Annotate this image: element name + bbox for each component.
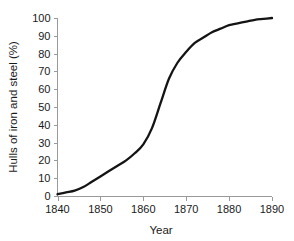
y-tick-label: 90: [38, 30, 50, 42]
y-tick-label: 30: [38, 137, 50, 149]
chart-figure: 0102030405060708090100 18401850186018701…: [0, 0, 294, 241]
data-series-group: [58, 18, 273, 194]
x-axis-title: Year: [149, 224, 172, 236]
y-tick-label: 80: [38, 48, 50, 60]
y-tick-label: 10: [38, 172, 50, 184]
x-tick-label: 1890: [260, 203, 284, 215]
y-tick-label: 60: [38, 83, 50, 95]
y-tick-label: 50: [38, 101, 50, 113]
y-tick-label: 40: [38, 119, 50, 131]
y-axis: 0102030405060708090100: [32, 12, 57, 202]
y-tick-label: 100: [32, 12, 50, 24]
x-tick-label: 1840: [45, 203, 69, 215]
x-tick-label: 1880: [217, 203, 241, 215]
x-axis: 184018501860187018801890: [45, 197, 284, 216]
y-tick-label: 70: [38, 65, 50, 77]
y-tick-group: 0102030405060708090100: [32, 12, 57, 202]
chart-canvas: 0102030405060708090100 18401850186018701…: [0, 0, 294, 241]
y-tick-label: 20: [38, 154, 50, 166]
x-tick-label: 1850: [88, 203, 112, 215]
x-tick-label: 1870: [174, 203, 198, 215]
data-curve-line: [58, 18, 273, 194]
y-tick-label: 0: [44, 190, 50, 202]
x-tick-label: 1860: [131, 203, 155, 215]
y-axis-title: Hulls of iron and steel (%): [7, 41, 19, 173]
x-tick-group: 184018501860187018801890: [45, 197, 284, 215]
